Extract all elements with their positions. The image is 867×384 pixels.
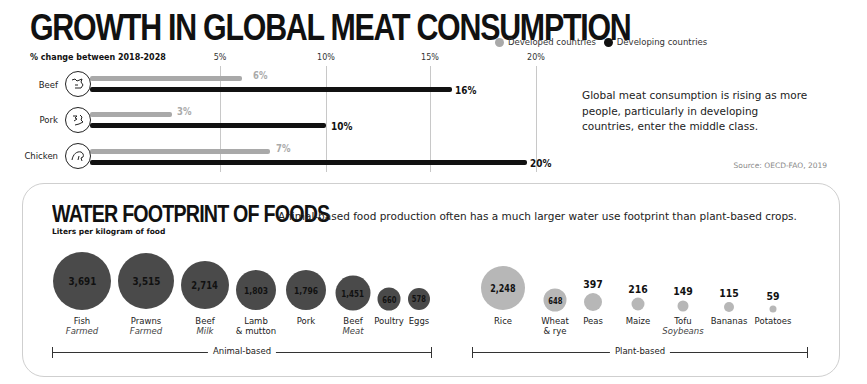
value-potatoes: 59 xyxy=(765,290,780,303)
food-label-prawns: PrawnsFarmed xyxy=(130,316,163,336)
bracket-animal-end xyxy=(431,347,432,358)
food-label-lamb: Lamb& mutton xyxy=(236,316,276,336)
bracket-plant-end xyxy=(807,347,808,358)
legend-dot-developing xyxy=(604,38,613,47)
food-label-beef-milk: BeefMilk xyxy=(195,316,214,336)
pig-icon xyxy=(65,107,91,133)
source-citation: Source: OECD-FAO, 2019 xyxy=(734,161,827,170)
bubble-lamb: 1,803 xyxy=(236,270,276,310)
x-tick-10: 10% xyxy=(317,53,335,62)
food-label-maize: Maize xyxy=(626,316,651,326)
food-label-eggs: Eggs xyxy=(409,316,430,326)
food-label-poultry: Poultry xyxy=(374,316,404,326)
bubble-prawns: 3,515 xyxy=(118,253,174,309)
x-tick-5: 5% xyxy=(214,53,227,62)
x-tick-20: 20% xyxy=(527,53,545,62)
value-tofu: 149 xyxy=(672,285,695,298)
cow-icon xyxy=(65,71,91,97)
bubble-poultry: 660 xyxy=(378,288,401,311)
value-pork-developed: 3% xyxy=(177,106,191,117)
bubble-tofu xyxy=(678,301,689,312)
gridline-10 xyxy=(326,66,327,172)
legend-dot-developed xyxy=(495,38,504,47)
category-label-beef: Beef xyxy=(18,80,58,90)
group-label-plant: Plant-based xyxy=(610,346,670,356)
bubble-beef-meat: 1,451 xyxy=(336,276,371,311)
food-label-tofu: TofuSoybeans xyxy=(662,316,703,336)
gridline-5 xyxy=(220,66,221,172)
value-maize: 216 xyxy=(627,283,650,296)
chart-subtitle-meat: % change between 2018-2028 xyxy=(30,53,166,62)
food-label-peas: Peas xyxy=(583,316,603,326)
value-pork-developing: 10% xyxy=(331,120,352,132)
legend: Developed countries Developing countries xyxy=(495,37,707,47)
bubble-peas xyxy=(584,293,602,311)
bubble-beef-milk: 2,714 xyxy=(181,261,229,309)
bubble-wheat: 648 xyxy=(544,289,567,312)
bubble-pork: 1,796 xyxy=(286,270,326,310)
food-label-pork: Pork xyxy=(297,316,315,326)
meat-note: Global meat consumption is rising as mor… xyxy=(582,88,812,135)
food-label-fish: FishFarmed xyxy=(66,316,99,336)
chicken-icon xyxy=(65,143,91,169)
bar-pork-developed xyxy=(90,112,172,117)
bar-beef-developed xyxy=(90,76,242,81)
bar-beef-developing xyxy=(90,87,452,92)
value-peas: 397 xyxy=(582,278,605,291)
bar-pork-developing xyxy=(90,123,326,128)
legend-label-developing: Developing countries xyxy=(617,37,707,47)
value-bananas: 115 xyxy=(718,287,741,300)
value-chicken-developed: 7% xyxy=(276,143,290,154)
bubble-eggs: 578 xyxy=(408,288,430,310)
value-chicken-developing: 20% xyxy=(530,157,551,169)
bubble-bananas xyxy=(724,302,734,312)
food-label-bananas: Bananas xyxy=(711,316,748,326)
bubble-rice: 2,248 xyxy=(481,266,525,310)
value-beef-developed: 6% xyxy=(253,70,267,81)
bar-chicken-developed xyxy=(90,149,270,154)
food-label-beef-meat: BeefMeat xyxy=(342,316,363,336)
value-beef-developing: 16% xyxy=(455,84,476,96)
food-label-rice: Rice xyxy=(494,316,512,326)
food-label-wheat: Wheat& rye xyxy=(541,316,569,336)
category-label-pork: Pork xyxy=(18,115,58,125)
group-label-animal: Animal-based xyxy=(208,346,276,356)
chart-subtitle-water: Liters per kilogram of food xyxy=(52,227,165,236)
legend-label-developed: Developed countries xyxy=(508,37,596,47)
bubble-fish: 3,691 xyxy=(53,252,111,310)
water-description: Animal-based food production often has a… xyxy=(278,210,797,222)
x-tick-15: 15% xyxy=(421,53,439,62)
bubble-maize xyxy=(632,298,645,311)
gridline-15 xyxy=(430,66,431,172)
bubble-potatoes xyxy=(770,306,777,313)
bar-chicken-developing xyxy=(90,160,527,165)
category-label-chicken: Chicken xyxy=(18,151,58,161)
food-label-potatoes: Potatoes xyxy=(755,316,792,326)
